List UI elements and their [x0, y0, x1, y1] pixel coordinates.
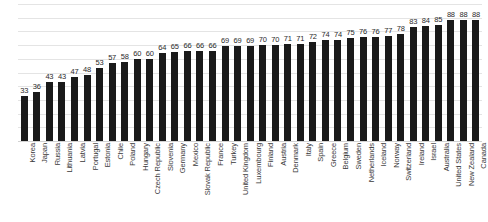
bar-rect [309, 42, 316, 141]
category-tick: Norway [382, 143, 395, 219]
category-tick: Belgium [332, 143, 345, 219]
bar-item: 69 [244, 4, 257, 141]
bar-value-label: 69 [221, 37, 229, 45]
bar-value-label: 64 [158, 44, 166, 52]
bar-item: 64 [156, 4, 169, 141]
bar-value-label: 83 [409, 18, 417, 26]
category-tick: Korea [18, 143, 31, 219]
category-tick: Canada [470, 143, 483, 219]
bar-item: 88 [457, 4, 470, 141]
bar-rect [385, 36, 392, 141]
bar-rect [46, 82, 53, 141]
bar-series: 3336434347485357586060646566666669696970… [18, 4, 482, 141]
bar-chart: 3336434347485357586060646566666669696970… [0, 0, 488, 222]
bar-rect [322, 40, 329, 141]
bar-item: 66 [194, 4, 207, 141]
category-label: Canada [479, 143, 488, 169]
category-tick: Czech Republic [143, 143, 156, 219]
bar-item: 74 [319, 4, 332, 141]
bar-value-label: 71 [296, 35, 304, 43]
bar-item: 88 [445, 4, 458, 141]
bar-item: 66 [206, 4, 219, 141]
category-tick: Ireland [407, 143, 420, 219]
bar-rect [222, 46, 229, 141]
bar-item: 72 [307, 4, 320, 141]
bar-rect [435, 25, 442, 141]
bar-item: 57 [106, 4, 119, 141]
bar-item: 83 [407, 4, 420, 141]
gridline [18, 141, 482, 142]
category-tick: Iceland [369, 143, 382, 219]
category-tick: Lithuania [56, 143, 69, 219]
category-tick: Switzerland [394, 143, 407, 219]
category-tick: Japan [31, 143, 44, 219]
bar-item: 53 [93, 4, 106, 141]
category-tick: Israel [420, 143, 433, 219]
category-tick: Latvia [68, 143, 81, 219]
bar-value-label: 77 [384, 27, 392, 35]
bar-value-label: 57 [108, 54, 116, 62]
bar-rect [96, 68, 103, 141]
bar-value-label: 66 [196, 42, 204, 50]
bar-item: 77 [382, 4, 395, 141]
bar-item: 71 [281, 4, 294, 141]
category-tick: Slovak Republic [194, 143, 207, 219]
bar-value-label: 60 [146, 50, 154, 58]
bar-item: 65 [169, 4, 182, 141]
bar-value-label: 72 [309, 33, 317, 41]
bar-item: 84 [420, 4, 433, 141]
bar-value-label: 88 [472, 11, 480, 19]
category-tick: France [206, 143, 219, 219]
bar-value-label: 69 [246, 37, 254, 45]
bar-item: 60 [143, 4, 156, 141]
bar-value-label: 88 [447, 11, 455, 19]
bar-item: 69 [219, 4, 232, 141]
category-tick: Russia [43, 143, 56, 219]
bar-rect [334, 40, 341, 141]
bar-item: 76 [369, 4, 382, 141]
bar-value-label: 85 [434, 16, 442, 24]
bar-rect [21, 96, 28, 141]
category-tick: Greece [319, 143, 332, 219]
bar-item: 71 [294, 4, 307, 141]
bar-value-label: 70 [271, 36, 279, 44]
category-tick: Poland [118, 143, 131, 219]
bar-rect [297, 44, 304, 141]
bar-value-label: 43 [58, 73, 66, 81]
bar-rect [284, 44, 291, 141]
category-tick: Turkey [219, 143, 232, 219]
bar-value-label: 58 [121, 53, 129, 61]
bar-value-label: 66 [209, 42, 217, 50]
bar-value-label: 69 [234, 37, 242, 45]
bar-item: 69 [231, 4, 244, 141]
bar-item: 88 [470, 4, 483, 141]
category-tick: Slovenia [156, 143, 169, 219]
bar-rect [146, 59, 153, 141]
bar-value-label: 84 [422, 17, 430, 25]
bar-item: 78 [394, 4, 407, 141]
bar-rect [447, 20, 454, 141]
category-tick: United States [445, 143, 458, 219]
bar-rect [58, 82, 65, 141]
bar-value-label: 76 [359, 28, 367, 36]
category-tick: Spain [307, 143, 320, 219]
plot-area: 3336434347485357586060646566666669696970… [18, 4, 482, 141]
bar-value-label: 65 [171, 43, 179, 51]
bar-rect [410, 27, 417, 141]
bar-value-label: 47 [70, 68, 78, 76]
bar-rect [234, 46, 241, 141]
bar-rect [184, 51, 191, 141]
category-tick: Australia [432, 143, 445, 219]
category-axis: KoreaJapanRussiaLithuaniaLatviaPortugalE… [18, 143, 482, 219]
bar-rect [196, 51, 203, 141]
category-tick: Sweden [344, 143, 357, 219]
bar-item: 70 [256, 4, 269, 141]
bar-item: 43 [56, 4, 69, 141]
bar-value-label: 53 [96, 59, 104, 67]
bar-item: 76 [357, 4, 370, 141]
bar-rect [460, 20, 467, 141]
bar-item: 66 [181, 4, 194, 141]
bar-value-label: 76 [372, 28, 380, 36]
bar-rect [372, 37, 379, 141]
bar-value-label: 33 [20, 87, 28, 95]
